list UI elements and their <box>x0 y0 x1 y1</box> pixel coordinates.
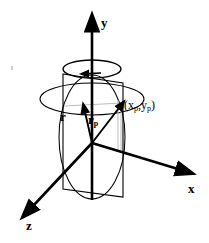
point-label-open: (x <box>124 98 134 112</box>
vector-label-r-text: r <box>60 109 66 124</box>
figure-canvas: y x z r rp (xp,yp) <box>0 0 209 243</box>
axis-line-x <box>92 143 178 169</box>
point-label-sub-y: p <box>147 104 151 113</box>
vector-label-r-p-sub: p <box>94 119 98 128</box>
vector-label-r: r <box>60 110 66 123</box>
point-label-sub-x: p <box>134 104 138 113</box>
scan-speck-artifact <box>11 66 13 70</box>
axis-label-y: y <box>101 16 108 29</box>
vector-label-r-p-text: r <box>88 112 94 127</box>
axes-group <box>33 30 178 206</box>
point-label-mid: ,y <box>138 98 147 112</box>
point-label: (xp,yp) <box>124 99 155 111</box>
vector-label-r-p: rp <box>88 113 98 126</box>
axis-label-z: z <box>26 219 32 232</box>
point-label-close: ) <box>151 98 155 112</box>
axis-label-x: x <box>188 182 195 195</box>
diagram-svg <box>0 0 209 243</box>
